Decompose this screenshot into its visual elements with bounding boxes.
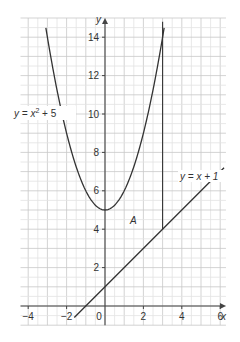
x-axis-arrow-icon: [220, 303, 226, 309]
curve-label: y = x2 + 5: [13, 107, 57, 119]
y-tick-label: 4: [93, 224, 99, 235]
y-tick-label: 2: [93, 262, 99, 273]
y-tick-label: 12: [88, 70, 100, 81]
x-tick-label: 2: [141, 311, 147, 322]
y-axis-label: y: [95, 14, 102, 25]
y-axis-arrow-icon: [102, 18, 108, 24]
x-tick-label: 0: [96, 311, 102, 322]
x-tick-label: −4: [22, 311, 34, 322]
line-label: y = x + 1: [179, 171, 218, 182]
graph: 2468101214−4−20246 y = x2 + 5 y = x + 1 …: [0, 0, 240, 342]
x-axis-label: x: [220, 311, 227, 322]
y-tick-label: 8: [93, 147, 99, 158]
y-tick-label: 6: [93, 185, 99, 196]
y-tick-label: 14: [88, 32, 100, 43]
x-tick-label: 4: [179, 311, 185, 322]
x-tick-label: −2: [61, 311, 73, 322]
region-label: A: [129, 215, 137, 226]
y-tick-label: 10: [88, 109, 100, 120]
